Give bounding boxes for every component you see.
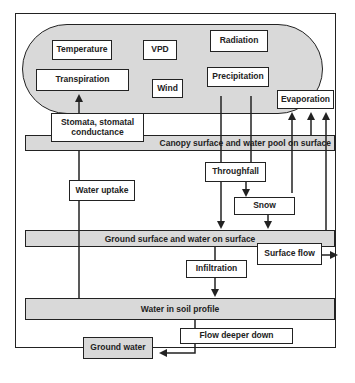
ground-layer-label: Ground surface and water on surface bbox=[105, 234, 256, 244]
canopy-layer-label: Canopy surface and water pool on surface bbox=[160, 138, 331, 148]
radiation-label: Radiation bbox=[220, 36, 259, 46]
throughfall-label: Throughfall bbox=[212, 167, 259, 177]
flow-deeper-box: Flow deeper down bbox=[180, 328, 293, 344]
water-uptake-label: Water uptake bbox=[75, 186, 128, 196]
infiltration-box: Infiltration bbox=[186, 260, 247, 278]
flow-deeper-label: Flow deeper down bbox=[199, 331, 273, 341]
water-uptake-box: Water uptake bbox=[69, 180, 135, 201]
evaporation-label: Evaporation bbox=[281, 95, 330, 105]
vpd-box: VPD bbox=[143, 40, 177, 60]
evaporation-box: Evaporation bbox=[277, 90, 334, 109]
throughfall-box: Throughfall bbox=[205, 162, 266, 182]
surface-flow-box: Surface flow bbox=[257, 243, 322, 265]
wind-box: Wind bbox=[152, 79, 183, 98]
snow-label: Snow bbox=[253, 201, 276, 211]
soil-layer: Water in soil profile bbox=[25, 298, 335, 320]
precipitation-box: Precipitation bbox=[207, 67, 269, 87]
surface-flow-label: Surface flow bbox=[264, 249, 315, 259]
wind-label: Wind bbox=[157, 84, 178, 94]
radiation-box: Radiation bbox=[210, 30, 268, 52]
temperature-label: Temperature bbox=[57, 45, 108, 55]
stomata-label: Stomata, stomatal conductance bbox=[52, 118, 143, 138]
snow-box: Snow bbox=[234, 197, 295, 215]
soil-layer-label: Water in soil profile bbox=[141, 304, 220, 314]
precipitation-label: Precipitation bbox=[212, 72, 263, 82]
ground-water-label: Ground water bbox=[90, 343, 145, 353]
transpiration-label: Transpiration bbox=[56, 75, 110, 85]
temperature-box: Temperature bbox=[52, 40, 112, 60]
infiltration-label: Infiltration bbox=[196, 264, 238, 274]
ground-water-box: Ground water bbox=[83, 337, 153, 359]
stomata-box: Stomata, stomatal conductance bbox=[51, 113, 144, 142]
transpiration-box: Transpiration bbox=[36, 69, 129, 91]
vpd-label: VPD bbox=[151, 45, 168, 55]
